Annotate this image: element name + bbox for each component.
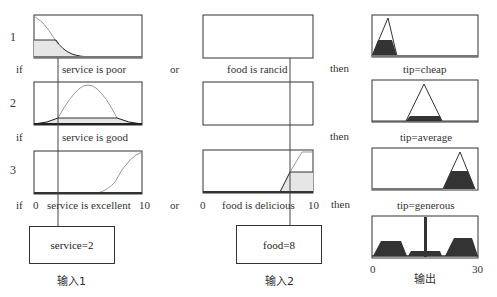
rule-2-input1-label: service is good [62, 131, 128, 143]
input2-axis-min: 0 [200, 199, 206, 211]
rule-number-2: 2 [10, 96, 16, 111]
mf-plot-food-delicious [203, 150, 313, 193]
centroid-marker [424, 217, 427, 257]
input1-axis-max: 10 [139, 199, 150, 211]
mf-plot-service-excellent [34, 151, 142, 194]
rule-1-then: then [330, 62, 349, 74]
rule-number-1: 1 [10, 30, 16, 45]
rule-1-output-label: tip=cheap [403, 63, 446, 75]
input2-value-text: food=8 [263, 239, 295, 251]
input2-caption: 输入2 [265, 272, 294, 288]
mf-plot-tip-cheap [372, 15, 478, 57]
rule-1-input1-label: service is poor [62, 63, 126, 75]
rule-3-connector: or [170, 199, 179, 211]
rule-1-input2-label: food is rancid [227, 63, 287, 75]
mf-plot-empty-row2 [203, 82, 313, 125]
rule-3-if: if [16, 199, 23, 211]
input1-caption: 输入1 [57, 272, 86, 288]
output-aggregate-plot [372, 216, 478, 258]
output-caption: 输出 [414, 270, 436, 286]
mf-plot-service-poor [34, 15, 142, 58]
input1-value-text: service=2 [51, 239, 94, 251]
input1-value-box: service=2 [29, 226, 115, 264]
rule-3-output-label: tip=generous [397, 199, 455, 211]
mf-plot-tip-generous [372, 148, 478, 190]
output-axis-min: 0 [370, 263, 376, 275]
rule-2-if: if [16, 131, 23, 143]
rule-2-then: then [330, 130, 349, 142]
rule-number-3: 3 [10, 163, 16, 178]
mf-plot-tip-average [372, 80, 478, 122]
output-axis-max: 30 [472, 263, 483, 275]
mf-plot-food-rancid [203, 15, 313, 58]
mf-plot-service-good [34, 82, 142, 125]
rule-3-then: then [331, 198, 350, 210]
rule-1-if: if [16, 63, 23, 75]
input2-axis-max: 10 [308, 199, 319, 211]
rule-3-input2-label: food is delicious [222, 199, 295, 211]
input2-value-box: food=8 [236, 225, 322, 264]
rule-3-input1-label: service is excellent [47, 199, 131, 211]
rule-1-connector: or [170, 63, 179, 75]
input1-axis-min: 0 [33, 199, 39, 211]
rule-2-output-label: tip=average [400, 131, 452, 143]
